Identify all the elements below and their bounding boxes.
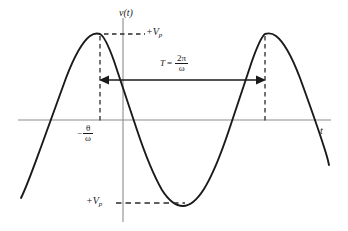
period-arrow	[99, 75, 266, 84]
positive-peak-symbol: +V	[146, 26, 159, 37]
positive-peak-label: +Vp	[146, 27, 162, 39]
positive-peak-subscript: p	[159, 31, 163, 39]
negative-peak-subscript: p	[99, 200, 103, 208]
phase-shift-fraction: θ ω	[83, 124, 93, 144]
period-fraction: 2π ω	[175, 54, 188, 74]
x-axis-label: t	[320, 126, 323, 136]
waveform-figure: v(t) t +Vp +Vp − θ ω T = 2π ω	[0, 0, 348, 231]
phase-shift-sign: −	[77, 129, 82, 138]
period-equals-sign: =	[167, 59, 172, 68]
negative-peak-label: +Vp	[86, 196, 102, 208]
phase-shift-label: − θ ω	[77, 124, 93, 144]
period-symbol: T	[160, 59, 165, 68]
y-axis-label: v(t)	[119, 8, 133, 18]
period-label: T = 2π ω	[160, 54, 188, 74]
phase-shift-denominator: ω	[83, 134, 93, 143]
waveform-canvas	[0, 0, 348, 231]
negative-peak-symbol: +V	[86, 195, 99, 206]
period-denominator: ω	[175, 64, 188, 73]
